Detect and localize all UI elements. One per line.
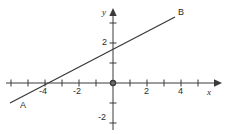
y-tick-label-minus2: -2: [98, 113, 106, 122]
graph-figure: -4 -2 2 4 2 -2 x y A B: [0, 0, 236, 134]
point-label-a: A: [20, 101, 26, 110]
x-tick-label-2: 2: [144, 87, 149, 96]
y-tick-label-2: 2: [102, 38, 107, 47]
y-axis-arrow-icon: [109, 8, 116, 16]
x-axis-name: x: [207, 88, 211, 97]
graph-canvas: [0, 0, 236, 134]
x-axis-arrow-icon: [214, 79, 222, 86]
x-tick-label-4: 4: [178, 87, 183, 96]
x-tick-label-minus2: -2: [73, 87, 81, 96]
line-segment-ab: [10, 17, 175, 103]
x-tick-label-minus4: -4: [39, 87, 47, 96]
point-label-b: B: [178, 8, 184, 17]
y-axis-name: y: [102, 8, 106, 17]
